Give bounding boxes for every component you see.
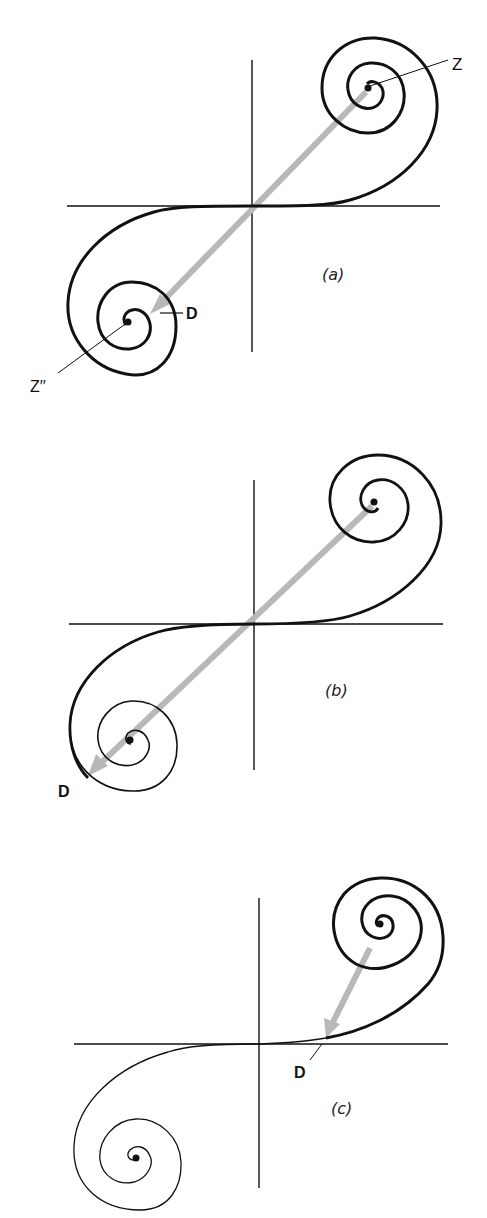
cornu-spiral-upper-thick <box>326 878 443 1038</box>
cornu-spiral-lower <box>68 206 252 375</box>
cornu-spiral-figure: Z D Z′′ (a) D (b) D (c) <box>0 0 487 1218</box>
leader-d-c <box>310 1044 322 1060</box>
cornu-spiral-upper <box>259 1038 326 1044</box>
label-z2: Z′′ <box>30 378 46 395</box>
label-d-a: D <box>186 305 198 322</box>
caption-c: (c) <box>331 1099 352 1118</box>
spiral-eye-lower <box>127 737 134 744</box>
cornu-spiral-upper <box>254 455 441 624</box>
label-d-c: D <box>294 1064 306 1081</box>
phasor-arrow <box>100 506 372 764</box>
panel-c: D (c) <box>74 878 448 1210</box>
spiral-eye-lower <box>133 1155 140 1162</box>
caption-a: (a) <box>322 265 344 284</box>
label-d-b: D <box>58 783 70 800</box>
spiral-eye-upper <box>371 499 378 506</box>
cornu-spiral-lower <box>74 1044 259 1210</box>
panel-a: Z D Z′′ (a) <box>30 38 462 395</box>
spiral-eye-upper <box>377 921 384 928</box>
panel-b: D (b) <box>58 455 443 800</box>
caption-b: (b) <box>325 681 348 700</box>
label-z: Z <box>452 55 462 74</box>
